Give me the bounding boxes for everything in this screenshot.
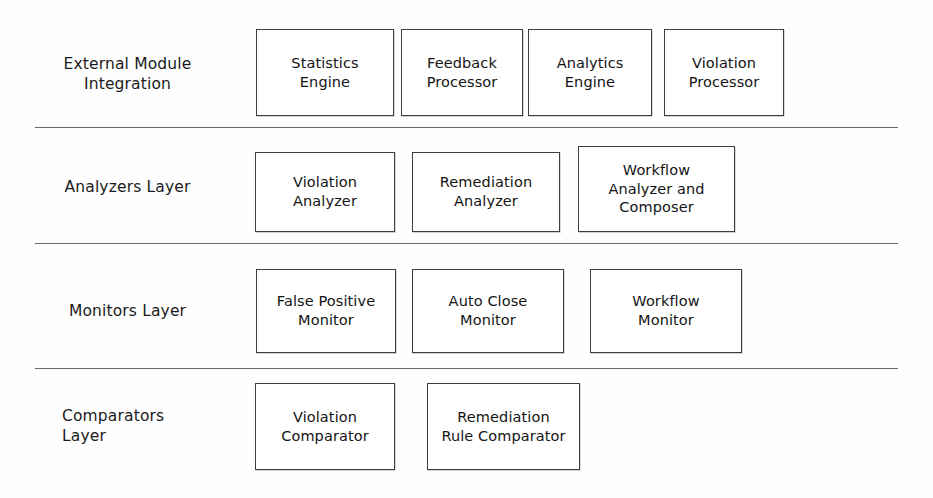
- layer-separator-1: [35, 127, 898, 128]
- layer-separator-3: [35, 368, 898, 369]
- layer-label-analyzers-layer: Analyzers Layer: [40, 172, 215, 202]
- node-remediation-analyzer[interactable]: Remediation Analyzer: [412, 152, 560, 232]
- layer-label-monitors-layer: Monitors Layer: [40, 296, 215, 326]
- node-workflow-analyzer-and-composer[interactable]: Workflow Analyzer and Composer: [578, 146, 735, 232]
- layer-label-comparators-layer: Comparators Layer: [62, 398, 237, 454]
- node-workflow-monitor[interactable]: Workflow Monitor: [590, 269, 742, 353]
- node-violation-processor[interactable]: Violation Processor: [664, 29, 784, 116]
- node-false-positive-monitor[interactable]: False Positive Monitor: [256, 269, 396, 353]
- node-feedback-processor[interactable]: Feedback Processor: [401, 29, 523, 116]
- node-remediation-rule-comparator[interactable]: Remediation Rule Comparator: [427, 383, 580, 470]
- node-auto-close-monitor[interactable]: Auto Close Monitor: [412, 269, 564, 353]
- node-analytics-engine[interactable]: Analytics Engine: [528, 29, 652, 116]
- node-statistics-engine[interactable]: Statistics Engine: [256, 29, 394, 116]
- layer-separator-2: [35, 243, 898, 244]
- node-violation-comparator[interactable]: Violation Comparator: [255, 383, 395, 470]
- layer-label-external-module-integration: External Module Integration: [40, 44, 215, 104]
- node-violation-analyzer[interactable]: Violation Analyzer: [255, 152, 395, 232]
- architecture-diagram: External Module Integration Statistics E…: [0, 0, 933, 498]
